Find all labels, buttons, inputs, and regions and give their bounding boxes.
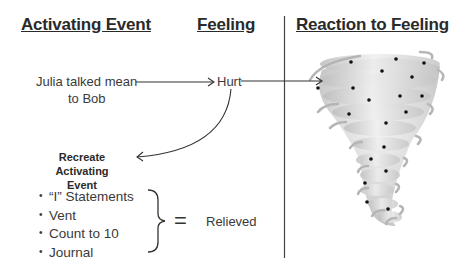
- recreate-line1: Recreate Activating: [32, 150, 132, 178]
- list-item: •Count to 10: [39, 224, 134, 243]
- recreate-heading: Recreate Activating Event: [32, 150, 132, 192]
- bullet-icon: •: [39, 206, 49, 224]
- equals-sign: =: [174, 208, 187, 234]
- bullet-icon: •: [39, 224, 49, 242]
- header-reaction: Reaction to Feeling: [296, 15, 449, 35]
- result-label: Relieved: [206, 214, 257, 229]
- event-text-line2: to Bob: [68, 91, 106, 106]
- header-feeling: Feeling: [197, 15, 255, 35]
- tornado-icon: [310, 52, 443, 226]
- list-item: •“I” Statements: [39, 187, 134, 206]
- arrow-event-to-feeling: [136, 78, 214, 86]
- bullet-icon: •: [39, 187, 49, 205]
- header-activating-event: Activating Event: [21, 15, 151, 35]
- list-item: •Vent: [39, 206, 134, 225]
- list-item: •Journal: [39, 243, 134, 262]
- strategy-list: •“I” Statements •Vent •Count to 10 •Jour…: [39, 187, 134, 261]
- bullet-icon: •: [39, 243, 49, 261]
- event-text-line1: Julia talked mean: [36, 74, 137, 89]
- feeling-label: Hurt: [217, 74, 242, 89]
- curly-brace: [148, 190, 165, 252]
- arrow-feeling-to-recreate: [137, 89, 231, 161]
